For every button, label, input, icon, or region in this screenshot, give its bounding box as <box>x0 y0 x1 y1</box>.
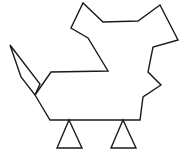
figure-background <box>0 0 187 154</box>
line-drawing-figure: Abstract polygonal bird outline Black li… <box>0 0 187 154</box>
